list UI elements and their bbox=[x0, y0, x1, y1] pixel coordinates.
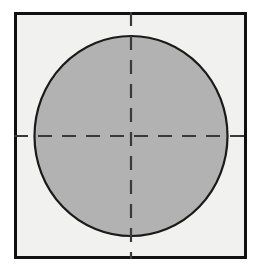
figure-container bbox=[0, 0, 256, 270]
circle-in-square-figure bbox=[0, 0, 256, 270]
